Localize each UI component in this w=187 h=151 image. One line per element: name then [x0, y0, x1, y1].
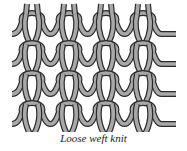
weft-knit-diagram: [0, 0, 187, 132]
figure-caption: Loose weft knit: [0, 132, 187, 144]
knit-loops: [12, 4, 176, 132]
